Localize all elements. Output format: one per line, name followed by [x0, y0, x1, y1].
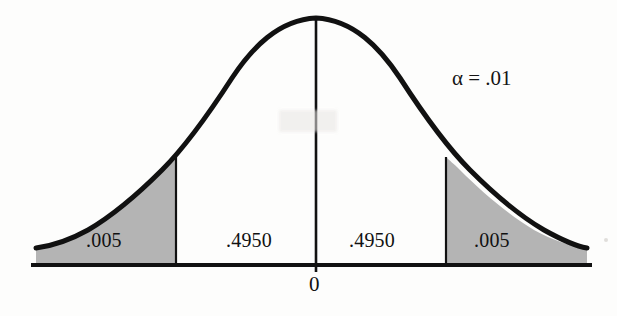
right-body-area-label: .4950 [349, 229, 395, 252]
normal-distribution-figure: .005 .4950 .4950 .005 α = .01 0 [0, 0, 617, 316]
axis-origin-label: 0 [309, 272, 320, 297]
left-body-area-label: .4950 [226, 229, 272, 252]
normal-curve-chart [0, 0, 617, 316]
alpha-significance-label: α = .01 [452, 66, 512, 91]
scan-artifact-speck [604, 238, 608, 242]
right-tail-area-label: .005 [474, 229, 510, 252]
left-tail-area-label: .005 [86, 229, 122, 252]
